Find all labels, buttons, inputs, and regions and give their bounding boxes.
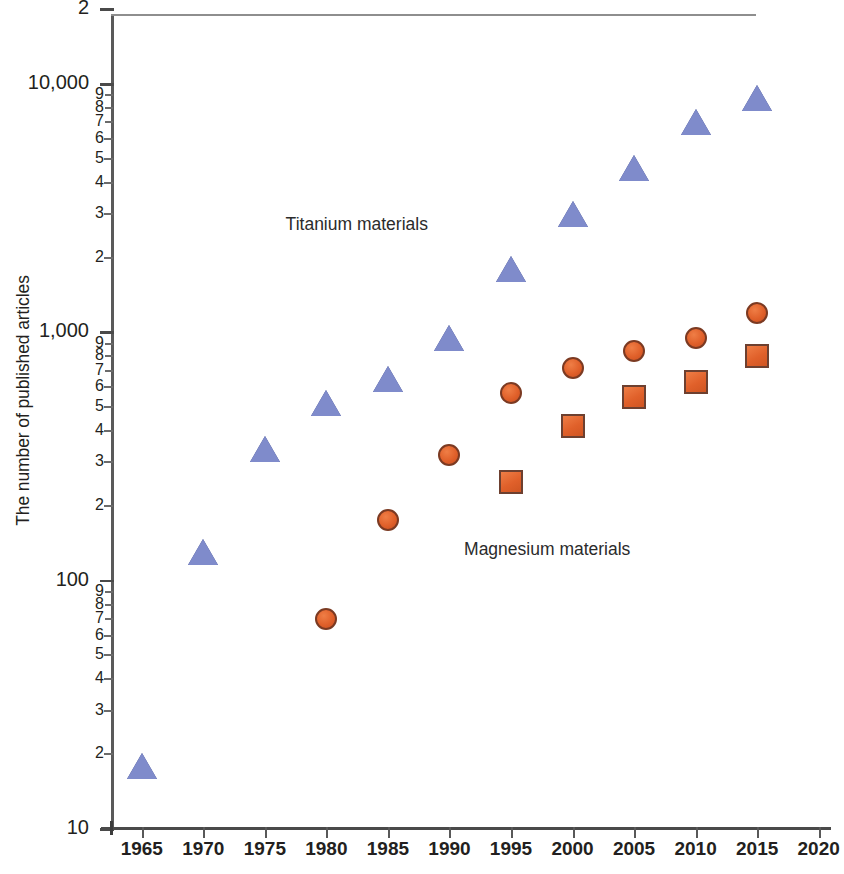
x-tick xyxy=(696,827,698,838)
data-point-triangle xyxy=(619,155,649,181)
x-tick xyxy=(326,827,328,838)
y-axis-tick-label: 6 xyxy=(95,377,104,395)
y-tick xyxy=(105,591,113,593)
data-point-triangle xyxy=(558,201,588,227)
y-axis-tick-label: 3 xyxy=(95,452,104,470)
y-axis-tick-label: 4 xyxy=(95,669,104,687)
data-point-circle xyxy=(438,444,460,466)
y-axis-tick-label: 4 xyxy=(95,421,104,439)
data-point-circle xyxy=(623,340,645,362)
y-tick xyxy=(104,257,113,259)
x-axis-line xyxy=(101,827,831,830)
y-axis-tick-label: 2 xyxy=(95,248,104,266)
x-tick xyxy=(388,827,390,838)
y-tick xyxy=(105,604,113,606)
y-axis-tick-label: 5 xyxy=(95,397,104,415)
data-point-circle xyxy=(377,509,399,531)
data-point-triangle xyxy=(681,109,711,135)
y-tick xyxy=(104,182,113,184)
x-tick xyxy=(203,827,205,838)
y-tick xyxy=(104,753,113,755)
x-tick xyxy=(265,827,267,838)
data-point-triangle xyxy=(373,366,403,392)
data-point-triangle xyxy=(496,256,526,282)
y-axis-tick-label: 5 xyxy=(95,149,104,167)
y-tick xyxy=(105,370,113,372)
y-axis-tick-label: 9 xyxy=(95,85,104,103)
y-tick xyxy=(105,343,113,345)
y-tick xyxy=(100,8,114,11)
y-tick xyxy=(104,505,113,507)
data-point-circle xyxy=(562,357,584,379)
y-tick xyxy=(104,430,113,432)
y-axis-tick-label: 100 xyxy=(56,568,89,591)
series-annotation: Titanium materials xyxy=(286,214,428,235)
data-point-circle xyxy=(500,382,522,404)
top-border-rule xyxy=(111,14,756,16)
y-axis-tick-label: 10,000 xyxy=(28,71,89,94)
y-axis-tick-label: 3 xyxy=(95,701,104,719)
y-tick xyxy=(105,355,113,357)
data-point-square xyxy=(684,370,708,394)
y-tick xyxy=(105,121,113,123)
y-tick xyxy=(104,678,113,680)
x-axis-origin-tick xyxy=(110,821,113,835)
y-tick xyxy=(105,107,113,109)
y-tick xyxy=(104,461,113,463)
y-tick xyxy=(105,618,113,620)
data-point-circle xyxy=(685,327,707,349)
data-point-triangle xyxy=(250,436,280,462)
data-point-square xyxy=(622,385,646,409)
y-axis-tick-label: 6 xyxy=(95,129,104,147)
y-axis-tick-label: 4 xyxy=(95,173,104,191)
x-tick xyxy=(142,827,144,838)
data-point-circle xyxy=(315,608,337,630)
y-axis-tick-label: 5 xyxy=(95,645,104,663)
y-tick xyxy=(104,386,113,388)
y-axis-tick-label: 10 xyxy=(67,816,89,839)
y-axis-tick-label: 2 xyxy=(95,496,104,514)
data-point-square xyxy=(499,470,523,494)
x-tick xyxy=(449,827,451,838)
y-axis-tick-label: 3 xyxy=(95,204,104,222)
y-axis-tick-label: 9 xyxy=(95,334,104,352)
x-tick xyxy=(634,827,636,838)
data-point-triangle xyxy=(311,390,341,416)
y-axis-title: The number of published articles xyxy=(13,221,34,581)
x-tick xyxy=(819,827,821,838)
data-point-triangle xyxy=(127,753,157,779)
x-tick xyxy=(757,827,759,838)
series-annotation: Magnesium materials xyxy=(464,539,630,560)
y-tick xyxy=(105,94,113,96)
y-axis-tick-label: 1,000 xyxy=(39,319,89,342)
x-axis-tick-label: 2020 xyxy=(779,838,844,860)
y-axis-tick-label: 2 xyxy=(78,0,89,19)
y-tick xyxy=(104,406,113,408)
y-axis-tick-label: 2 xyxy=(95,744,104,762)
y-axis-tick-label: 9 xyxy=(95,582,104,600)
data-point-triangle xyxy=(188,539,218,565)
x-tick xyxy=(511,827,513,838)
data-point-triangle xyxy=(434,325,464,351)
plot-area xyxy=(111,14,831,829)
y-tick xyxy=(104,710,113,712)
y-tick xyxy=(104,654,113,656)
y-tick xyxy=(104,138,113,140)
x-tick xyxy=(573,827,575,838)
data-point-square xyxy=(745,344,769,368)
y-axis-line xyxy=(111,14,114,829)
y-tick xyxy=(104,635,113,637)
y-tick xyxy=(104,213,113,215)
data-point-square xyxy=(561,414,585,438)
y-tick xyxy=(104,158,113,160)
y-axis-tick-label: 6 xyxy=(95,626,104,644)
data-point-circle xyxy=(746,302,768,324)
data-point-triangle xyxy=(742,85,772,111)
